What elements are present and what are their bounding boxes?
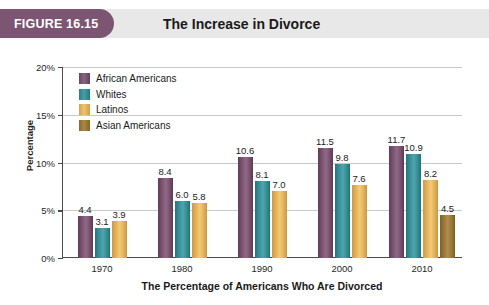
bar-value-label: 5.8 xyxy=(192,191,205,202)
x-axis-tick-label: 2010 xyxy=(411,263,432,274)
x-axis-tick-label: 1990 xyxy=(251,263,272,274)
y-axis-tick-label: 10% xyxy=(36,157,55,168)
y-axis-tick-label: 15% xyxy=(36,109,55,120)
y-axis-tick-label: 5% xyxy=(41,205,55,216)
x-axis-tick-label: 2000 xyxy=(331,263,352,274)
bar[interactable]: 10.6 xyxy=(238,157,253,258)
figure-number-badge: FIGURE 16.15 xyxy=(0,9,114,38)
bar-group: 11.710.98.24.5 xyxy=(389,67,455,258)
bar[interactable]: 11.7 xyxy=(389,146,404,258)
bar-value-label: 11.5 xyxy=(316,136,334,147)
bar-value-label: 7.6 xyxy=(352,173,365,184)
x-axis-tick-label: 1970 xyxy=(91,263,112,274)
bar-value-label: 7.0 xyxy=(272,179,285,190)
bar-value-label: 10.6 xyxy=(236,145,255,156)
bar-value-label: 10.9 xyxy=(404,142,423,153)
bar-value-label: 4.4 xyxy=(78,204,91,215)
bar[interactable]: 8.2 xyxy=(423,180,438,258)
bar[interactable]: 7.6 xyxy=(352,185,367,258)
bar-value-label: 6.0 xyxy=(175,189,188,200)
y-axis-tick-label: 0% xyxy=(41,253,55,264)
bar[interactable]: 9.8 xyxy=(335,164,350,258)
figure-container: FIGURE 16.15 The Increase in Divorce Per… xyxy=(0,0,489,305)
y-axis-tick-labels: 0%5%10%15%20% xyxy=(27,67,55,258)
bar[interactable]: 8.4 xyxy=(158,178,173,258)
bar-group: 10.68.17.0 xyxy=(238,67,287,258)
bar-value-label: 9.8 xyxy=(335,152,348,163)
figure-number-label: FIGURE 16.15 xyxy=(14,17,98,31)
bar-value-label: 8.2 xyxy=(424,168,437,179)
bar[interactable]: 8.1 xyxy=(255,181,270,258)
bar-value-label: 4.5 xyxy=(441,203,454,214)
bar[interactable]: 7.0 xyxy=(272,191,287,258)
y-axis-tick-label: 20% xyxy=(36,62,55,73)
bar-value-label: 11.7 xyxy=(388,134,406,145)
bar[interactable]: 4.4 xyxy=(78,216,93,258)
bar[interactable]: 5.8 xyxy=(192,203,207,258)
bar[interactable]: 3.9 xyxy=(112,221,127,258)
bar-groups: 4.43.13.98.46.05.810.68.17.011.59.87.611… xyxy=(62,67,462,258)
bar[interactable]: 10.9 xyxy=(406,154,421,258)
bar-value-label: 8.4 xyxy=(158,166,171,177)
bar[interactable]: 11.5 xyxy=(318,148,333,258)
bar-group: 4.43.13.9 xyxy=(78,67,127,258)
bar-value-label: 8.1 xyxy=(255,169,268,180)
y-axis-tick xyxy=(58,258,63,259)
figure-title: The Increase in Divorce xyxy=(163,9,320,38)
bar[interactable]: 6.0 xyxy=(175,201,190,258)
chart-area: Percentage 0%5%10%15%20% African America… xyxy=(0,44,489,305)
bar-value-label: 3.9 xyxy=(112,209,125,220)
x-axis-tick-label: 1980 xyxy=(171,263,192,274)
bar[interactable]: 4.5 xyxy=(440,215,455,258)
bar-group: 11.59.87.6 xyxy=(318,67,367,258)
bar-value-label: 3.1 xyxy=(95,216,108,227)
x-axis-title: The Percentage of Americans Who Are Divo… xyxy=(62,280,462,292)
bar-group: 8.46.05.8 xyxy=(158,67,207,258)
bar[interactable]: 3.1 xyxy=(95,228,110,258)
